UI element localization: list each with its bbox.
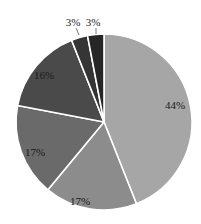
slice-label-2: 17%: [25, 146, 45, 158]
slice-label-1: 17%: [70, 195, 90, 207]
slice-label-0: 44%: [165, 99, 185, 111]
slice-label-3: 16%: [34, 69, 54, 81]
leader-line-4: [76, 28, 79, 35]
slice-label-5: 3%: [86, 16, 101, 28]
pie-slices: [16, 34, 192, 210]
pie-chart: 44%17%17%16%3%3%: [0, 0, 201, 224]
slice-label-4: 3%: [66, 16, 81, 28]
